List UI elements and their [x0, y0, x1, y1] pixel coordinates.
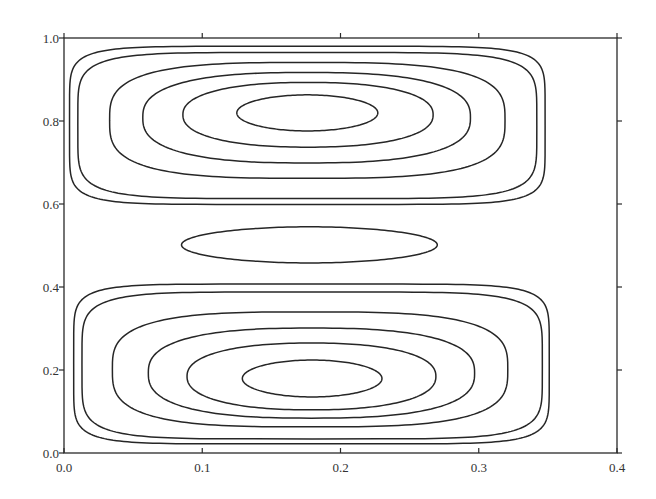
y-axis-tick-labels: 0.0 0.2 0.4 0.6 0.8 1.0 — [43, 31, 60, 461]
x-tick-label: 0.2 — [332, 460, 348, 475]
contour-line — [110, 62, 505, 178]
contour-line — [143, 72, 471, 162]
x-tick-label: 0.0 — [56, 460, 72, 475]
y-tick-label: 0.8 — [43, 114, 59, 129]
y-tick-label: 1.0 — [43, 31, 59, 46]
contour-line — [187, 343, 436, 410]
y-tick-label: 0.0 — [43, 446, 59, 461]
contour-lines — [70, 46, 550, 444]
contour-line — [183, 82, 433, 147]
contour-line — [242, 360, 382, 397]
x-tick-label: 0.1 — [194, 460, 210, 475]
contour-chart: 0.0 0.1 0.2 0.3 0.4 0.0 0.2 0.4 0.6 0.8 … — [0, 0, 656, 499]
x-axis-tick-labels: 0.0 0.1 0.2 0.3 0.4 — [56, 460, 626, 475]
contour-line — [70, 46, 546, 204]
contour-line — [237, 95, 378, 131]
contour-line — [74, 284, 550, 444]
x-tick-label: 0.4 — [609, 460, 626, 475]
x-axis-ticks — [64, 33, 617, 453]
contour-line — [148, 328, 474, 418]
contour-line — [182, 227, 438, 263]
axes-box — [64, 38, 617, 453]
y-tick-label: 0.4 — [43, 280, 60, 295]
y-tick-label: 0.6 — [43, 197, 60, 212]
y-axis-ticks — [59, 38, 622, 453]
y-tick-label: 0.2 — [43, 363, 59, 378]
x-tick-label: 0.3 — [471, 460, 487, 475]
plot-frame — [64, 38, 617, 453]
